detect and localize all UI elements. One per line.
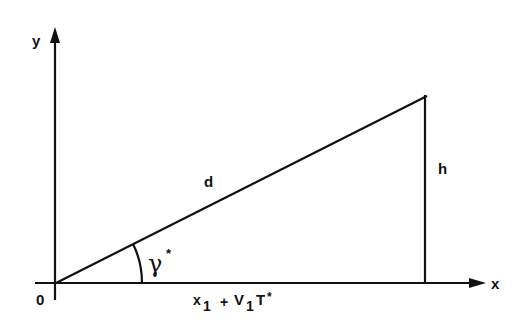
svg-text:x: x <box>193 292 201 308</box>
hypotenuse-label: d <box>204 173 213 190</box>
x-axis-label: x <box>491 275 500 292</box>
base-label: x 1 + V 1 T * <box>193 290 272 314</box>
y-axis-label: y <box>32 32 41 49</box>
height-label: h <box>438 160 447 177</box>
diagram-canvas: y x 0 d h γ * x 1 + V 1 T * <box>0 0 516 333</box>
svg-text:1: 1 <box>246 298 254 314</box>
diagram-svg: y x 0 d h γ * x 1 + V 1 T * <box>0 0 516 333</box>
svg-text:*: * <box>267 290 272 304</box>
svg-text:V: V <box>234 291 244 308</box>
y-axis-arrow-icon <box>50 27 60 43</box>
svg-text:1: 1 <box>203 298 211 314</box>
origin-label: 0 <box>36 291 44 308</box>
x-axis-arrow-icon <box>469 278 486 288</box>
svg-text:T: T <box>256 291 265 308</box>
svg-text:+: + <box>220 294 228 310</box>
hypotenuse-line <box>56 96 427 283</box>
angle-arc <box>133 244 142 283</box>
svg-text:*: * <box>166 246 172 261</box>
y-axis <box>50 27 60 300</box>
angle-label: γ * <box>148 246 172 278</box>
x-axis <box>35 278 486 288</box>
svg-text:γ: γ <box>148 250 162 278</box>
